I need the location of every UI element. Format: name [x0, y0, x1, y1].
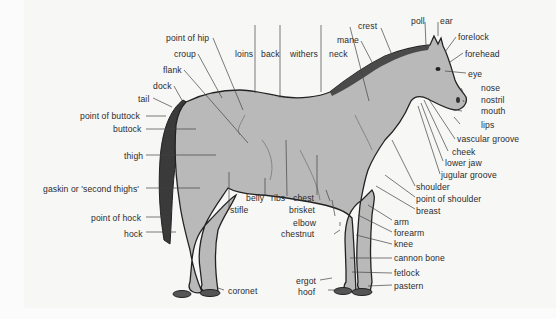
label-jugular-groove: jugular groove [441, 170, 497, 180]
label-point-of-hock: point of hock [91, 213, 141, 223]
label-breast: breast [416, 206, 441, 216]
label-forearm: forearm [394, 228, 424, 238]
label-ribs: ribs [271, 193, 285, 203]
label-belly: belly [246, 193, 264, 203]
label-stifle: stifle [230, 205, 248, 215]
label-hoof: hoof [298, 287, 315, 297]
label-ear: ear [440, 16, 453, 26]
label-gaskin: gaskin or 'second thighs' [43, 184, 139, 194]
label-pastern: pastern [394, 281, 423, 291]
label-lips: lips [481, 120, 494, 130]
label-arm: arm [394, 217, 409, 227]
nostril-shape [456, 97, 460, 103]
label-point-of-shoulder: point of shoulder [416, 194, 481, 204]
label-point-of-hip: point of hip [166, 33, 209, 43]
label-elbow: elbow [293, 218, 316, 228]
label-crest: crest [358, 21, 377, 31]
label-point-of-buttock: point of buttock [80, 111, 140, 121]
label-cheek: cheek [452, 147, 475, 157]
diagram-canvas: point of hip croup flank dock tail point… [0, 0, 556, 319]
label-vascular-groove: vascular groove [457, 134, 519, 144]
label-mane: mane [337, 35, 359, 45]
label-ergot: ergot [296, 276, 316, 286]
label-forelock: forelock [458, 32, 489, 42]
label-neck: neck [329, 49, 348, 59]
label-chest: chest [293, 193, 314, 203]
label-brisket: brisket [289, 205, 315, 215]
label-fetlock: fetlock [394, 268, 420, 278]
label-tail: tail [138, 94, 149, 104]
label-dock: dock [153, 81, 172, 91]
label-thigh: thigh [124, 151, 143, 161]
label-shoulder: shoulder [416, 182, 450, 192]
label-flank: flank [163, 65, 182, 75]
label-chestnut: chestnut [281, 229, 314, 239]
label-coronet: coronet [228, 286, 257, 296]
label-forehead: forehead [465, 49, 500, 59]
label-hock: hock [124, 229, 143, 239]
label-poll: poll [411, 16, 425, 26]
label-withers: withers [290, 49, 318, 59]
label-back: back [261, 49, 280, 59]
label-knee: knee [394, 239, 413, 249]
label-cannon-bone: cannon bone [394, 253, 445, 263]
label-mouth: mouth [481, 106, 505, 116]
label-nostril: nostril [481, 95, 505, 105]
label-buttock: buttock [113, 124, 141, 134]
label-eye: eye [468, 69, 482, 79]
label-loins: loins [235, 49, 253, 59]
eye-shape [436, 67, 441, 71]
label-croup: croup [174, 49, 196, 59]
label-lower-jaw: lower jaw [445, 158, 482, 168]
label-nose: nose [481, 83, 500, 93]
